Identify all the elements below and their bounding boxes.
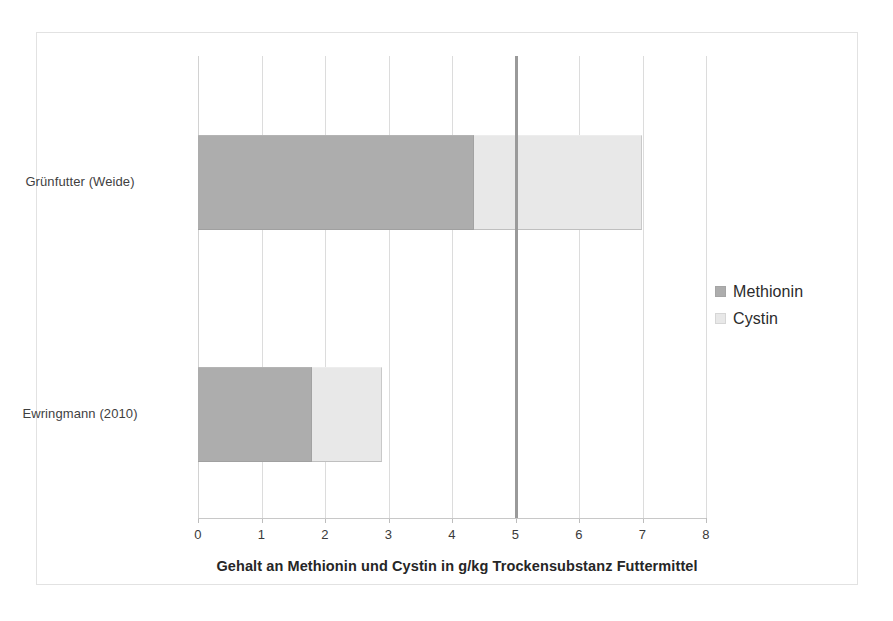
reference-line-5 [515, 56, 518, 518]
plot-area [198, 56, 706, 518]
x-tick-label-1: 1 [242, 527, 282, 542]
legend-label: Methionin [733, 283, 803, 301]
legend-item-methionin[interactable]: Methionin [715, 278, 855, 305]
bar-group[interactable] [198, 367, 706, 462]
x-tick-label-2: 2 [305, 527, 345, 542]
x-tick-label-3: 3 [369, 527, 409, 542]
x-axis-title: Gehalt an Methionin und Cystin in g/kg T… [137, 558, 777, 574]
bar-segment-methionin[interactable] [198, 367, 312, 462]
chart-frame: 012345678 Grünfutter (Weide)Ewringmann (… [36, 32, 858, 585]
x-tick-label-5: 5 [496, 527, 536, 542]
plot-wrapper: 012345678 Grünfutter (Weide)Ewringmann (… [37, 33, 859, 586]
legend-swatch-icon-methionin [715, 286, 726, 297]
x-tick-label-8: 8 [686, 527, 726, 542]
x-tick-label-6: 6 [559, 527, 599, 542]
x-tick-label-0: 0 [178, 527, 218, 542]
bar-segment-cystin[interactable] [474, 135, 642, 230]
legend-label: Cystin [733, 310, 778, 328]
chart-legend: MethioninCystin [715, 278, 855, 332]
legend-item-cystin[interactable]: Cystin [715, 305, 855, 332]
bar-segment-methionin[interactable] [198, 135, 474, 230]
tick-mark-8 [706, 518, 707, 523]
gridline-8 [706, 56, 707, 518]
x-tick-label-7: 7 [623, 527, 663, 542]
legend-swatch-icon-cystin [715, 313, 726, 324]
x-axis-line [198, 518, 706, 519]
category-label-2: Ewringmann (2010) [0, 406, 195, 421]
x-tick-label-4: 4 [432, 527, 472, 542]
bar-group[interactable] [198, 135, 706, 230]
category-label-1: Grünfutter (Weide) [0, 174, 195, 189]
bar-segment-cystin[interactable] [312, 367, 382, 462]
